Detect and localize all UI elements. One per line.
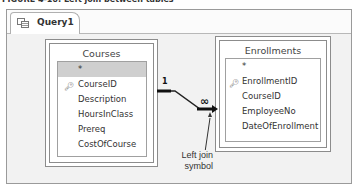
tab-strip: Query1 — [7, 10, 351, 34]
left-join-annotation: Left join symbol — [165, 150, 213, 172]
join-many-label: ∞ — [200, 95, 209, 108]
figure-caption: FIGURE 4-16: Left join between tables — [2, 0, 174, 4]
tab-query1[interactable]: Query1 — [10, 12, 80, 34]
tab-label: Query1 — [37, 17, 74, 27]
join-one-label: 1 — [162, 77, 168, 86]
query-design-canvas: Courses * 🔑︎CourseID Description HoursIn… — [7, 34, 351, 183]
query-window: Query1 Courses * 🔑︎CourseID Description … — [6, 9, 352, 184]
query-icon — [17, 18, 29, 28]
